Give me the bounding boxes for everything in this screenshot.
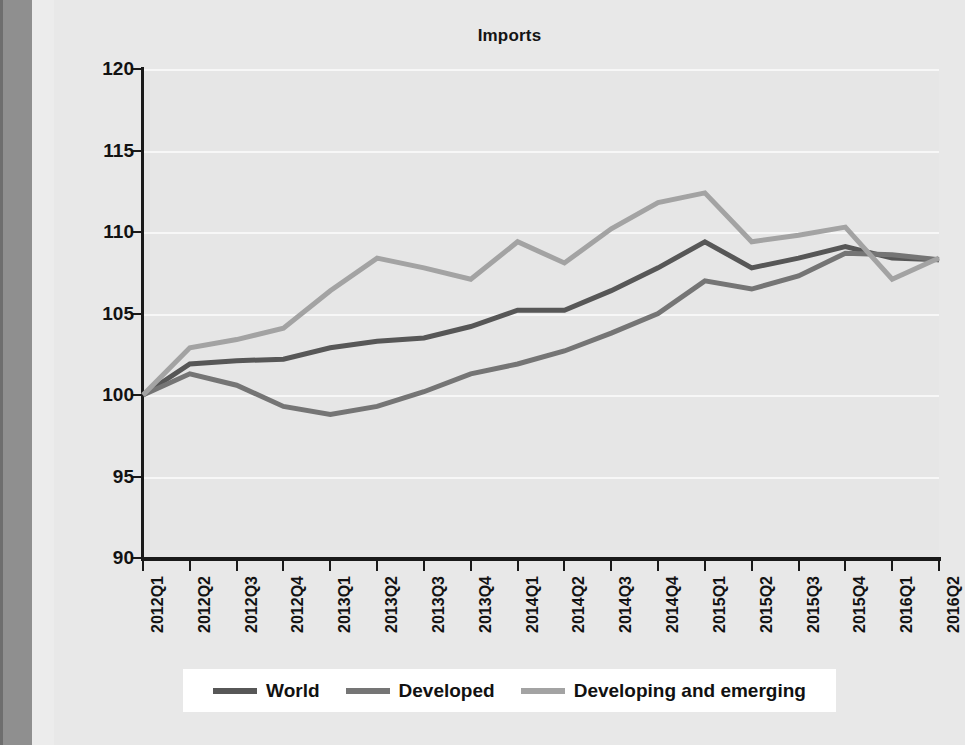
gridline xyxy=(143,232,939,234)
x-axis-label: 2012Q2 xyxy=(197,576,213,633)
legend-label: World xyxy=(266,680,319,702)
x-axis-tick xyxy=(798,561,800,571)
x-axis-label: 2013Q3 xyxy=(431,576,447,633)
legend-item[interactable]: Developed xyxy=(346,680,495,702)
x-axis-tick xyxy=(563,561,565,571)
x-axis-tick xyxy=(329,561,331,571)
plot-area xyxy=(143,69,939,558)
legend-swatch xyxy=(213,688,257,694)
x-axis-tick xyxy=(282,561,284,571)
x-axis-label: 2014Q2 xyxy=(571,576,587,633)
y-axis-label: 120 xyxy=(60,59,134,78)
chart-legend: WorldDevelopedDeveloping and emerging xyxy=(183,669,836,712)
legend-item[interactable]: World xyxy=(213,680,319,702)
x-axis-label: 2015Q4 xyxy=(852,576,868,633)
left-gray-strip xyxy=(3,0,32,745)
legend-label: Developed xyxy=(399,680,495,702)
y-axis-label: 110 xyxy=(60,222,134,241)
legend-item[interactable]: Developing and emerging xyxy=(521,680,806,702)
legend-swatch xyxy=(346,688,390,694)
x-axis-tick xyxy=(142,561,144,571)
left-light-strip xyxy=(32,0,54,745)
gridline xyxy=(143,395,939,397)
x-axis-label: 2016Q2 xyxy=(946,576,962,633)
x-axis-tick xyxy=(938,561,940,571)
x-axis-tick xyxy=(376,561,378,571)
x-axis-label: 2012Q3 xyxy=(244,576,260,633)
chart-page: Imports 1201151101051009590 2012Q12012Q2… xyxy=(0,0,965,745)
page-title: Imports xyxy=(54,26,965,46)
y-axis-label: 105 xyxy=(60,304,134,323)
y-axis-label: 90 xyxy=(60,548,134,567)
y-axis-label: 95 xyxy=(60,467,134,486)
x-axis-label: 2014Q3 xyxy=(618,576,634,633)
x-axis-label: 2012Q1 xyxy=(150,576,166,633)
x-axis-label: 2013Q2 xyxy=(384,576,400,633)
legend-label: Developing and emerging xyxy=(574,680,806,702)
x-axis-label: 2015Q1 xyxy=(712,576,728,633)
gridline xyxy=(143,151,939,153)
x-axis-label: 2014Q1 xyxy=(525,576,541,633)
gridline xyxy=(143,69,939,71)
x-axis-tick xyxy=(236,561,238,571)
x-axis-tick xyxy=(704,561,706,571)
gridline xyxy=(143,477,939,479)
x-axis-tick xyxy=(610,561,612,571)
y-axis-label: 100 xyxy=(60,385,134,404)
x-axis-tick xyxy=(517,561,519,571)
y-axis-label: 115 xyxy=(60,141,134,160)
legend-swatch xyxy=(521,688,565,694)
x-axis-label: 2014Q4 xyxy=(665,576,681,633)
x-axis-label: 2012Q4 xyxy=(290,576,306,633)
x-axis-tick xyxy=(844,561,846,571)
x-axis-tick xyxy=(423,561,425,571)
x-axis-label: 2013Q4 xyxy=(478,576,494,633)
x-axis-label: 2015Q3 xyxy=(806,576,822,633)
x-axis-label: 2016Q1 xyxy=(899,576,915,633)
x-axis-tick xyxy=(657,561,659,571)
x-axis-tick xyxy=(470,561,472,571)
x-axis-label: 2013Q1 xyxy=(337,576,353,633)
x-axis-label: 2015Q2 xyxy=(759,576,775,633)
x-axis-line xyxy=(141,557,941,561)
x-axis-tick xyxy=(751,561,753,571)
chart-figure: Imports 1201151101051009590 2012Q12012Q2… xyxy=(54,0,965,745)
x-axis-tick xyxy=(189,561,191,571)
gridline xyxy=(143,314,939,316)
x-axis-tick xyxy=(891,561,893,571)
